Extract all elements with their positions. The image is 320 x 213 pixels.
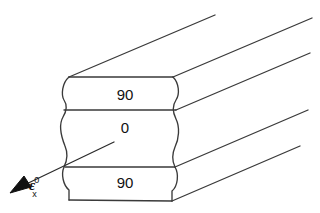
ply-label-middle: 0 [96, 120, 154, 135]
laminate-drawing [0, 0, 320, 213]
strain-arrowhead-icon [10, 176, 31, 193]
top-face-back-edge [69, 15, 215, 77]
strain-symbol-label: ε0x [29, 176, 45, 197]
ply-interface-bottom [69, 200, 172, 201]
laminate-geometry [61, 15, 312, 201]
front-face-right-edge [172, 77, 179, 201]
ply-label-top: 90 [96, 87, 154, 102]
laminate-figure: 90 0 90 ε0x [0, 0, 320, 213]
side-edge-bottom [172, 146, 300, 201]
epsilon-subscript: x [32, 189, 37, 199]
front-face-left-edge [61, 77, 69, 200]
side-edge-upper-interface [176, 53, 310, 110]
ply-label-bottom: 90 [96, 175, 154, 190]
top-face-right-receding-edge [173, 18, 312, 77]
epsilon-superscript: 0 [34, 175, 39, 185]
side-edge-lower-interface [175, 110, 308, 167]
